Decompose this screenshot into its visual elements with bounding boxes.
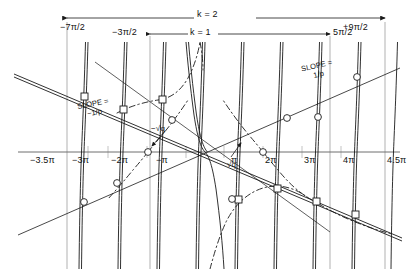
x-tick-label-4pi: 4π (343, 155, 355, 165)
span-label-k1: k = 1 (190, 27, 211, 37)
x-tick-label-minus-pi: −π (156, 155, 168, 165)
slope-right-line2: 1/p (312, 68, 324, 79)
sqrt-q-arrows (152, 131, 241, 157)
minus-sqrt-q-label: −√q (151, 124, 165, 133)
figure-canvas: −7π/2 +9π/2 k = 2 −3π/2 5π/2 k = 1 −3.5π… (0, 0, 410, 269)
span-label-5pi-2: 5π/2 (333, 27, 353, 37)
x-tick-label-minus-3-5pi: −3.5π (30, 155, 55, 165)
sqrt-q-label: √q (227, 160, 236, 169)
line-through-origin (95, 62, 330, 232)
span-label-k2: k = 2 (197, 9, 218, 19)
span-label-minus-3pi-2: −3π/2 (112, 27, 137, 37)
x-tick-label-4-5pi: 4.5π (387, 155, 407, 165)
plot-svg (0, 0, 410, 269)
x-tick-label-minus-3pi: −3π (72, 155, 89, 165)
span-label-minus-7pi-2: −7π/2 (60, 22, 85, 32)
center-steep-branches (186, 42, 224, 269)
vertical-gridlines (67, 22, 385, 269)
x-tick-label-3pi: 3π (304, 155, 316, 165)
x-tick-label-2pi: 2π (265, 155, 277, 165)
x-tick-label-minus-2pi: −2π (111, 155, 128, 165)
